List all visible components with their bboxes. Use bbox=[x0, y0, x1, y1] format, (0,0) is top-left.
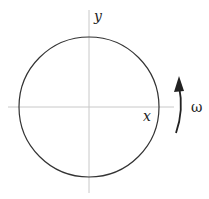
omega-label: ω bbox=[191, 100, 202, 114]
diagram-svg bbox=[0, 0, 209, 199]
x-axis-label: x bbox=[143, 109, 151, 123]
y-axis-label: y bbox=[94, 9, 102, 23]
diagram-canvas: y x ω bbox=[0, 0, 209, 199]
rotation-arrow-icon bbox=[176, 86, 181, 133]
arrow-head-icon bbox=[174, 76, 184, 92]
